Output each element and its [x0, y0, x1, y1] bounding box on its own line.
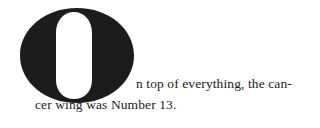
- paragraph-line-2: cer wing was Number 13.: [35, 97, 176, 113]
- drop-cap-o-glyph: [20, 8, 134, 103]
- drop-cap-letter-o: [20, 8, 134, 103]
- paragraph-line-1: n top of everything, the can-: [136, 76, 292, 92]
